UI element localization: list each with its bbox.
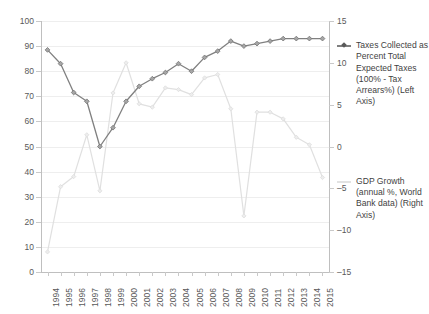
gridline — [41, 121, 329, 122]
data-point-marker — [242, 214, 246, 218]
x-axis-tick-label: 2009 — [248, 288, 257, 307]
x-axis-tick-label: 1999 — [117, 288, 126, 307]
series-gdp — [45, 61, 324, 254]
left-axis-tick-label: 80 — [6, 67, 34, 76]
right-axis-tick — [329, 230, 334, 231]
gridline — [41, 247, 329, 248]
x-axis-tick — [126, 272, 127, 276]
data-point-marker — [320, 175, 324, 179]
x-axis-tick-label: 2008 — [235, 288, 244, 307]
left-axis-tick-label: 30 — [6, 193, 34, 202]
data-point-marker — [229, 107, 233, 111]
left-axis-tick-label: 60 — [6, 117, 34, 126]
right-axis-tick — [329, 272, 334, 273]
data-point-marker — [320, 36, 325, 41]
gridline — [41, 46, 329, 47]
legend-label-gdp: GDP Growth (annual %, World Bank data) (… — [356, 176, 429, 221]
series-line — [48, 39, 323, 147]
x-axis-tick — [48, 272, 49, 276]
x-axis-tick — [74, 272, 75, 276]
x-axis-tick — [270, 272, 271, 276]
data-point-marker — [255, 110, 259, 114]
bottom-axis-line — [41, 272, 330, 273]
x-axis-tick — [283, 272, 284, 276]
data-point-marker — [163, 86, 167, 90]
data-point-marker — [124, 99, 129, 104]
data-point-marker — [176, 61, 181, 66]
data-point-marker — [71, 90, 76, 95]
left-axis-tick-label: 10 — [6, 243, 34, 252]
data-point-marker — [307, 36, 312, 41]
left-axis-tick-label: 20 — [6, 218, 34, 227]
data-point-marker — [111, 91, 115, 95]
data-point-marker — [45, 47, 50, 52]
x-axis-tick-label: 1998 — [104, 288, 113, 307]
x-axis-tick-label: 1995 — [65, 288, 74, 307]
data-point-marker — [84, 99, 89, 104]
data-point-marker — [124, 61, 128, 65]
gridline — [41, 96, 329, 97]
x-axis-tick — [192, 272, 193, 276]
x-axis-tick — [87, 272, 88, 276]
gridline — [41, 172, 329, 173]
x-axis-tick-label: 1996 — [78, 288, 87, 307]
right-axis-tick — [329, 188, 334, 189]
x-axis-tick-label: 2005 — [196, 288, 205, 307]
data-point-marker — [45, 250, 49, 254]
gridline — [41, 197, 329, 198]
data-point-marker — [72, 174, 76, 178]
x-axis-tick-label: 2013 — [300, 288, 309, 307]
x-axis-tick-label: 2000 — [130, 288, 139, 307]
data-point-marker — [202, 55, 207, 60]
data-point-marker — [150, 105, 154, 109]
right-axis-tick-label: 15 — [337, 17, 361, 26]
right-axis-tick — [329, 105, 334, 106]
x-axis-tick — [152, 272, 153, 276]
data-point-marker — [215, 49, 220, 54]
right-axis-tick — [329, 21, 334, 22]
data-point-marker — [294, 135, 298, 139]
legend-marker-gdp-icon — [337, 181, 351, 183]
x-axis-tick — [165, 272, 166, 276]
x-axis-tick — [61, 272, 62, 276]
left-axis-tick-label: 50 — [6, 143, 34, 152]
data-point-marker — [294, 36, 299, 41]
legend-marker-taxes-icon — [337, 45, 351, 47]
data-point-marker — [228, 39, 233, 44]
x-axis-tick — [257, 272, 258, 276]
x-axis-tick-label: 2015 — [326, 288, 335, 307]
x-axis-tick — [205, 272, 206, 276]
chart-container: 0102030405060708090100 –15–10–5051015 19… — [0, 0, 429, 314]
left-axis-tick-label: 90 — [6, 42, 34, 51]
chart-legend: Taxes Collected as Percent Total Expecte… — [337, 40, 429, 169]
legend-entry-taxes[interactable]: Taxes Collected as Percent Total Expecte… — [337, 40, 429, 108]
x-axis-tick — [218, 272, 219, 276]
data-point-marker — [58, 61, 63, 66]
x-axis-tick-label: 2014 — [313, 288, 322, 307]
data-point-marker — [111, 125, 116, 130]
left-axis-tick-label: 0 — [6, 268, 34, 277]
gridline — [41, 222, 329, 223]
legend-label-taxes: Taxes Collected as Percent Total Expecte… — [356, 40, 429, 108]
data-point-marker — [202, 76, 206, 80]
data-point-marker — [268, 39, 273, 44]
x-axis-tick — [100, 272, 101, 276]
data-point-marker — [150, 76, 155, 81]
data-point-marker — [216, 72, 220, 76]
x-axis-tick-label: 1997 — [91, 288, 100, 307]
x-axis-tick-label: 2003 — [169, 288, 178, 307]
right-axis-tick — [329, 63, 334, 64]
data-point-marker — [281, 36, 286, 41]
x-axis-tick — [113, 272, 114, 276]
x-axis-tick — [244, 272, 245, 276]
left-axis-line — [41, 21, 42, 272]
legend-entry-gdp[interactable]: GDP Growth (annual %, World Bank data) (… — [337, 176, 429, 221]
x-axis-tick — [309, 272, 310, 276]
data-point-marker — [137, 84, 142, 89]
x-axis-tick-label: 2006 — [209, 288, 218, 307]
data-point-marker — [176, 87, 180, 91]
right-axis-tick-label: –10 — [337, 226, 361, 235]
left-axis-tick-label: 70 — [6, 92, 34, 101]
x-axis-tick-label: 2012 — [287, 288, 296, 307]
x-axis-tick-label: 2007 — [222, 288, 231, 307]
